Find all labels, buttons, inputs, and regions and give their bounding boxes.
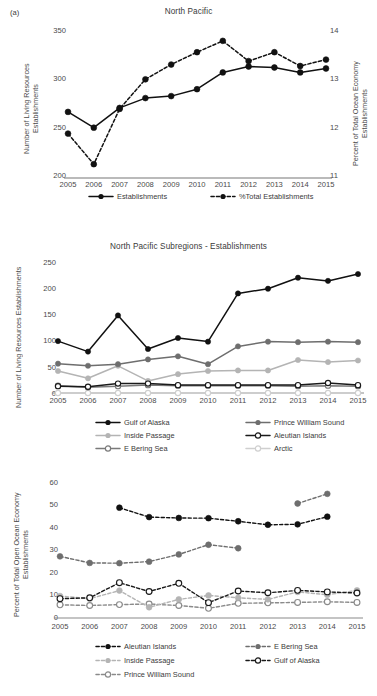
chart-north-pacific: (a) North Pacific Number of Living Resou… — [0, 0, 377, 230]
y-tick-50: 50 — [30, 500, 58, 509]
x-tick-2007: 2007 — [107, 180, 133, 189]
chart-subregions-establishments: North Pacific Subregions - Establishment… — [0, 240, 377, 470]
legend-item-arctic[interactable]: Arctic — [245, 444, 292, 453]
plot-area-3 — [60, 482, 357, 618]
legend-symbol--total-establishments — [210, 192, 236, 201]
figure-canvas: (a) North Pacific Number of Living Resou… — [0, 0, 377, 696]
x-tick-2007: 2007 — [105, 396, 131, 405]
y-tick-20: 20 — [30, 568, 58, 577]
y-tick-right-11: 11 — [330, 171, 344, 180]
x-tick-2005: 2005 — [45, 396, 71, 405]
y-tick-right-14: 14 — [330, 26, 344, 35]
x-tick-2010: 2010 — [195, 396, 221, 405]
legend-symbol-aleutian-islands — [95, 642, 121, 651]
plot-svg-3 — [60, 482, 357, 618]
legend-label: Aleutian Islands — [274, 431, 326, 440]
x-tick-2015: 2015 — [313, 180, 339, 189]
x-tick-2013: 2013 — [261, 180, 287, 189]
legend-item-prince-william-sound[interactable]: Prince William Sound — [245, 418, 344, 427]
legend-label: E Bering Sea — [274, 642, 318, 651]
x-tick-2008: 2008 — [136, 622, 162, 631]
chart-title-subregions-establishments: North Pacific Subregions - Establishment… — [0, 242, 377, 251]
legend-label: Establishments — [117, 192, 167, 201]
legend-label: %Total Establishments — [239, 192, 313, 201]
legend-label: Arctic — [274, 444, 292, 453]
legend-item-inside-passage[interactable]: Inside Passage — [95, 431, 175, 440]
x-tick-2011: 2011 — [225, 622, 251, 631]
chart-title-north-pacific: North Pacific — [0, 7, 377, 16]
legend-label: Prince William Sound — [274, 418, 344, 427]
y-tick-60: 60 — [30, 478, 58, 487]
plot-svg-2 — [58, 262, 358, 393]
legend-symbol-aleutian-islands — [245, 431, 271, 440]
legend-symbol-establishments — [88, 192, 114, 201]
y-tick-left-300: 300 — [38, 74, 66, 83]
x-tick-2008: 2008 — [135, 396, 161, 405]
legend-label: Inside Passage — [124, 431, 175, 440]
x-tick-2014: 2014 — [315, 396, 341, 405]
legend-item-gulf-of-alaska[interactable]: Gulf of Alaska — [95, 418, 170, 427]
legend-symbol-prince-william-sound — [95, 670, 121, 679]
plot-area-2 — [58, 262, 358, 393]
x-tick-2006: 2006 — [75, 396, 101, 405]
legend-label: Inside Passage — [124, 656, 175, 665]
y-tick-250: 250 — [28, 258, 56, 267]
y-tick-200: 200 — [28, 284, 56, 293]
legend-symbol-e-bering-sea — [245, 642, 271, 651]
x-tick-2011: 2011 — [210, 180, 236, 189]
legend-label: E Bering Sea — [124, 444, 168, 453]
legend-item-establishments[interactable]: Establishments — [88, 192, 167, 201]
plot-area-1 — [68, 30, 326, 178]
legend-item-inside-passage[interactable]: Inside Passage — [95, 656, 175, 665]
y-tick-30: 30 — [30, 545, 58, 554]
legend-item-gulf-of-alaska[interactable]: Gulf of Alaska — [245, 656, 320, 665]
y-tick-right-12: 12 — [330, 123, 344, 132]
x-tick-2008: 2008 — [132, 180, 158, 189]
legend-label: Gulf of Alaska — [274, 656, 320, 665]
legend-2: Gulf of AlaskaPrince William SoundInside… — [40, 418, 370, 458]
x-tick-2007: 2007 — [106, 622, 132, 631]
x-tick-2009: 2009 — [166, 622, 192, 631]
x-tick-2015: 2015 — [345, 396, 371, 405]
plot-svg-1 — [68, 30, 326, 178]
y-tick-left-250: 250 — [38, 123, 66, 132]
y-tick-left-350: 350 — [38, 26, 66, 35]
y-tick-100: 100 — [28, 336, 56, 345]
legend-label: Gulf of Alaska — [124, 418, 170, 427]
legend-symbol-prince-william-sound — [245, 418, 271, 427]
x-tick-2010: 2010 — [184, 180, 210, 189]
x-tick-2013: 2013 — [285, 622, 311, 631]
x-tick-2005: 2005 — [55, 180, 81, 189]
legend-symbol-inside-passage — [95, 431, 121, 440]
legend-symbol-e-bering-sea — [95, 444, 121, 453]
x-tick-2009: 2009 — [158, 180, 184, 189]
legend-item-prince-william-sound[interactable]: Prince William Sound — [95, 670, 194, 679]
legend-symbol-arctic — [245, 444, 271, 453]
y-tick-left-200: 200 — [38, 171, 66, 180]
x-tick-2012: 2012 — [255, 622, 281, 631]
x-tick-2010: 2010 — [196, 622, 222, 631]
legend-symbol-gulf-of-alaska — [95, 418, 121, 427]
x-tick-2015: 2015 — [344, 622, 370, 631]
legend-item-aleutian-islands[interactable]: Aleutian Islands — [95, 642, 176, 651]
x-tick-2012: 2012 — [255, 396, 281, 405]
legend-item--total-establishments[interactable]: %Total Establishments — [210, 192, 313, 201]
y-tick-50: 50 — [28, 363, 56, 372]
legend-label: Aleutian Islands — [124, 642, 176, 651]
legend-label: Prince William Sound — [124, 670, 194, 679]
x-tick-2013: 2013 — [285, 396, 311, 405]
legend-item-aleutian-islands[interactable]: Aleutian Islands — [245, 431, 326, 440]
x-tick-2014: 2014 — [314, 622, 340, 631]
legend-item-e-bering-sea[interactable]: E Bering Sea — [95, 444, 168, 453]
y-tick-10: 10 — [30, 590, 58, 599]
y-tick-0: 0 — [30, 613, 58, 622]
x-tick-2006: 2006 — [77, 622, 103, 631]
chart-subregions-percent: Percent of Total Open Ocean EconomyEstab… — [0, 470, 377, 696]
x-tick-2012: 2012 — [236, 180, 262, 189]
legend-item-e-bering-sea[interactable]: E Bering Sea — [245, 642, 318, 651]
x-tick-2006: 2006 — [81, 180, 107, 189]
y-axis-label-right-1: Percent of Total Ocean EconomyEstablishm… — [351, 44, 373, 184]
y-axis-label-2: Number of Living Resources Establishment… — [14, 258, 28, 416]
legend-symbol-inside-passage — [95, 656, 121, 665]
x-tick-2009: 2009 — [165, 396, 191, 405]
